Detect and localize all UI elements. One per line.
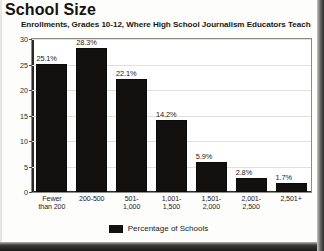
bar: 1.7% [276,183,307,192]
gridline [32,65,311,66]
bar-chart: 051015202530 25.1%Fewer than 20028.3%200… [0,32,317,222]
y-axis-tick-mark [29,90,32,91]
scanned-page: School Size Enrollments, Grades 10-12, W… [0,0,324,251]
bar-value-label: 1.7% [276,173,292,182]
bar: 22.1% [116,79,147,192]
y-axis-tick-mark [29,39,32,40]
bar: 5.9% [196,162,227,192]
scan-edge-artifact-bottom [0,242,324,251]
x-axis-category-label: 2,501+ [266,195,317,203]
bar: 25.1% [36,64,67,192]
bar-column: 28.3%200-500 [76,48,107,192]
bar-column: 1.7%2,501+ [276,183,307,192]
scan-edge-artifact-right [317,0,324,251]
bar-column: 22.1%501- 1,000 [116,79,147,192]
y-axis-tick-mark [29,141,32,142]
chart-legend: Percentage of Schools [0,224,317,233]
page-title: School Size [5,1,96,19]
legend-swatch-icon [109,225,123,233]
bar: 14.2% [156,120,187,192]
bar-value-label: 14.2% [156,110,176,119]
y-axis-tick-label: 10 [20,137,28,146]
y-axis-tick-mark [29,167,32,168]
y-axis-tick-label: 30 [20,35,28,44]
gridline [32,39,311,40]
y-axis-tick-label: 15 [20,111,28,120]
y-axis-tick-mark [29,116,32,117]
bar-value-label: 5.9% [196,152,212,161]
gridline [32,90,311,91]
bar-column: 5.9%1,501- 2,000 [196,162,227,192]
bar-value-label: 2.8% [236,168,252,177]
bar-column: 25.1%Fewer than 200 [36,64,67,192]
bar: 2.8% [236,178,267,192]
legend-label: Percentage of Schools [128,224,209,233]
y-axis-tick-mark [29,65,32,66]
scan-edge-artifact-left [0,0,2,242]
plot-area: 051015202530 25.1%Fewer than 20028.3%200… [31,38,312,193]
page-subtitle: Enrollments, Grades 10-12, Where High Sc… [21,20,311,29]
bar-column: 14.2%1,001- 1,500 [156,120,187,192]
bar-value-label: 25.1% [36,54,56,63]
y-axis-tick-label: 25 [20,60,28,69]
bar-column: 2.8%2,001- 2,500 [236,178,267,192]
y-axis-tick-label: 5 [24,162,28,171]
bar: 28.3% [76,48,107,192]
bar-value-label: 28.3% [76,38,96,47]
y-axis-tick-mark [29,192,32,193]
y-axis-tick-label: 20 [20,86,28,95]
bar-value-label: 22.1% [116,69,136,78]
